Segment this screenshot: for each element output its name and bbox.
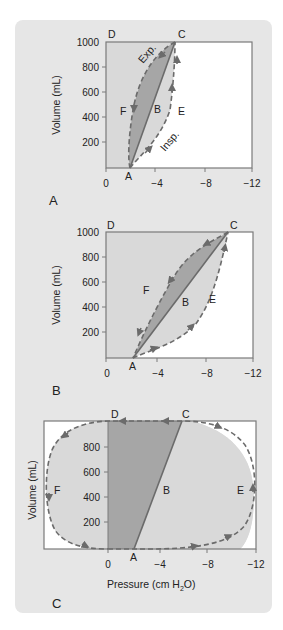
point-e-label: E [178,105,185,117]
y-tick-600: 600 [82,87,99,98]
y-tick-800: 800 [82,252,99,263]
point-b-label: B [154,103,161,115]
point-c-label: C [230,219,238,231]
point-a-label: A [130,551,137,563]
arrow-icon [224,247,225,252]
point-b-label: B [182,296,189,308]
x-axis-label: Pressure (cm H2O) [107,578,196,592]
x-tick-12: −12 [245,368,262,379]
point-a-label: A [125,170,132,182]
panel-b-label: B [52,383,61,398]
y-tick-400: 400 [82,112,99,123]
x-tick-4: −4 [154,559,166,570]
x-tick-12: −12 [248,559,265,570]
panel-c: 800 600 400 200 0 −4 −8 −12 Volume (mL) … [26,408,265,611]
x-tick-4: −4 [152,368,164,379]
x-tick-8: −8 [202,559,214,570]
y-tick-600: 600 [83,467,100,478]
y-axis-label: Volume (mL) [26,460,38,520]
arrow-icon [190,546,195,547]
y-tick-800: 800 [82,62,99,73]
point-f-label: F [143,284,149,296]
panel-b: 1000 800 600 400 200 0 −4 −8 −12 Volume … [50,219,262,398]
y-tick-1000: 1000 [77,227,100,238]
point-d-label: D [108,28,116,40]
y-tick-600: 600 [82,277,99,288]
y-tick-400: 400 [83,492,100,503]
point-d-label: D [107,219,115,231]
y-axis-label: Volume (mL) [50,265,62,325]
point-f-label: F [120,105,126,117]
x-tick-0: 0 [104,368,110,379]
point-e-label: E [237,484,244,496]
point-c-label: C [178,28,186,40]
y-tick-400: 400 [82,302,99,313]
x-tick-0: 0 [103,178,109,189]
point-e-label: E [209,293,216,305]
point-f-label: F [54,484,60,496]
x-tick-12: −12 [244,178,261,189]
panel-a-label: A [49,193,58,208]
point-d-label: D [111,408,119,420]
panel-c-label: C [52,596,61,611]
point-c-label: C [182,408,190,420]
point-b-label: B [163,484,170,496]
y-tick-1000: 1000 [77,37,100,48]
point-a-label: A [129,360,136,372]
panel-a: 1000 800 600 400 200 0 −4 −8 −12 Volume … [49,28,261,208]
y-tick-200: 200 [82,137,99,148]
x-tick-0: 0 [105,559,111,570]
figure-canvas: 1000 800 600 400 200 0 −4 −8 −12 Volume … [0,0,283,630]
y-tick-200: 200 [82,327,99,338]
y-tick-200: 200 [83,517,100,528]
y-tick-800: 800 [83,442,100,453]
x-tick-8: −8 [200,178,212,189]
y-axis-label: Volume (mL) [50,75,62,135]
x-tick-8: −8 [201,368,213,379]
x-tick-4: −4 [151,178,163,189]
